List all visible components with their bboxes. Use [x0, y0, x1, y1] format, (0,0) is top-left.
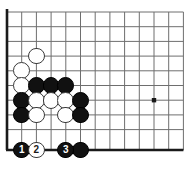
white-stone-move-2: 2 [28, 142, 45, 159]
black-stone-c5-r9 [72, 142, 89, 159]
move-number-label: 3 [63, 145, 69, 155]
hoshi-4-4-icon [152, 98, 156, 102]
go-board-diagram: 123 [0, 0, 186, 169]
star-points [152, 98, 156, 102]
black-stone-c5-r7 [72, 107, 89, 124]
white-stone-c2-r7 [28, 107, 45, 124]
move-number-label: 2 [34, 145, 40, 155]
move-number-label: 1 [19, 145, 25, 155]
white-stone-c2-r3 [28, 48, 45, 65]
